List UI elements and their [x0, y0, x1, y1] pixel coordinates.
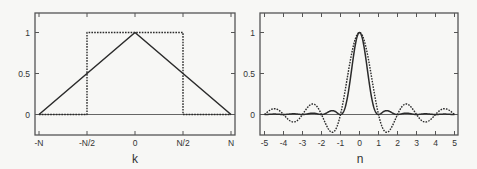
left-plot-panel: -N-N/20N/2N00.51 k	[18, 13, 235, 166]
figure: -N-N/20N/2N00.51 k -5-4-3-2-101234500.51…	[0, 0, 477, 169]
left-x-axis-label: k	[132, 152, 139, 166]
x-tick-label: -2	[318, 138, 326, 148]
right-plot-panel: -5-4-3-2-101234500.51 n	[243, 13, 458, 166]
y-tick-label: 1	[25, 28, 30, 38]
right-plot-frame	[260, 13, 458, 135]
right-x-axis-label: n	[357, 152, 364, 166]
left-plot-frame	[35, 13, 235, 135]
x-tick-label: 5	[452, 138, 457, 148]
x-tick-label: 0	[133, 138, 138, 148]
x-tick-label: 3	[414, 138, 419, 148]
x-tick-label: 0	[357, 138, 362, 148]
y-tick-label: 0.5	[18, 69, 30, 79]
x-tick-label: 1	[376, 138, 381, 148]
left-axis-ticks: -N-N/20N/2N00.51	[18, 13, 235, 148]
x-tick-label: -N	[35, 138, 44, 148]
y-tick-label: 1	[250, 28, 255, 38]
dotted-series-line	[39, 33, 231, 115]
y-tick-label: 0.5	[243, 69, 255, 79]
x-tick-label: 4	[433, 138, 438, 148]
x-tick-label: -1	[337, 138, 345, 148]
x-tick-label: -4	[280, 138, 288, 148]
right-series-lines	[265, 33, 455, 133]
x-tick-label: N	[228, 138, 234, 148]
y-tick-label: 0	[25, 110, 30, 120]
solid-series-line	[39, 33, 231, 115]
x-tick-label: 2	[395, 138, 400, 148]
x-tick-label: -5	[261, 138, 269, 148]
x-tick-label: -N/2	[79, 138, 95, 148]
dotted-series-line	[265, 33, 455, 133]
x-tick-label: N/2	[176, 138, 190, 148]
solid-series-line	[265, 33, 455, 115]
y-tick-label: 0	[250, 110, 255, 120]
left-series-lines	[39, 33, 231, 115]
x-tick-label: -3	[299, 138, 307, 148]
